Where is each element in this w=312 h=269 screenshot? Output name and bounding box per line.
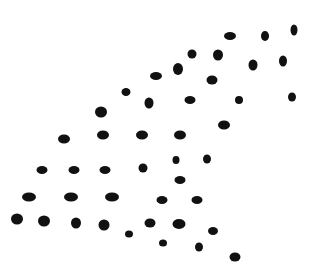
dot bbox=[38, 216, 50, 227]
dot bbox=[173, 219, 186, 229]
dot bbox=[279, 56, 287, 67]
dot bbox=[261, 31, 269, 41]
dot bbox=[157, 196, 168, 204]
dot bbox=[188, 50, 197, 59]
dot bbox=[145, 98, 154, 109]
dot bbox=[139, 164, 148, 173]
dot bbox=[150, 72, 162, 80]
dot bbox=[97, 131, 109, 140]
dot bbox=[207, 76, 218, 85]
dot-field bbox=[0, 0, 312, 269]
dot bbox=[145, 219, 156, 228]
dot bbox=[95, 107, 107, 118]
dot bbox=[203, 155, 211, 164]
dot bbox=[11, 214, 23, 225]
dot bbox=[175, 176, 186, 184]
dot bbox=[69, 166, 80, 174]
dot bbox=[249, 60, 258, 71]
dot bbox=[100, 166, 111, 174]
dot bbox=[71, 218, 81, 229]
dot bbox=[136, 131, 148, 140]
dot bbox=[105, 193, 119, 202]
dot bbox=[288, 93, 296, 102]
dot bbox=[173, 156, 180, 164]
dot bbox=[185, 96, 196, 104]
dot bbox=[64, 193, 78, 202]
dot bbox=[99, 220, 110, 231]
dot bbox=[192, 196, 203, 204]
dot bbox=[230, 253, 241, 262]
dot bbox=[22, 193, 36, 202]
dot bbox=[224, 32, 236, 40]
dot bbox=[195, 243, 203, 252]
dot bbox=[218, 121, 230, 130]
dot bbox=[37, 166, 48, 174]
dot bbox=[173, 63, 183, 75]
dot bbox=[58, 135, 70, 144]
dot bbox=[291, 25, 298, 36]
dot bbox=[213, 50, 223, 61]
dot bbox=[208, 227, 218, 235]
dot bbox=[174, 131, 186, 140]
dot bbox=[122, 88, 131, 96]
dot bbox=[235, 96, 243, 104]
dot bbox=[125, 231, 133, 238]
dot bbox=[159, 240, 167, 247]
